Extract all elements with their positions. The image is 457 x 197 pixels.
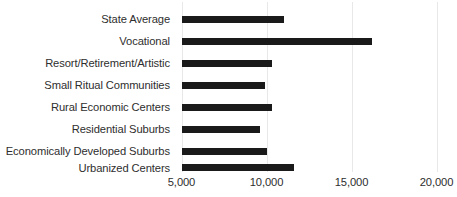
gridline-10000 [267,2,268,172]
bar[interactable] [182,60,272,67]
x-tick-label: 20,000 [420,176,454,188]
bar[interactable] [182,164,294,171]
bar[interactable] [182,16,284,23]
bar[interactable] [182,148,267,155]
gridline-15000 [352,2,353,172]
bar-chart: State AverageVocationalResort/Retirement… [0,0,457,197]
bar[interactable] [182,82,265,89]
x-tick-label: 10,000 [250,176,284,188]
x-tick-label: 5,000 [168,176,196,188]
bar[interactable] [182,126,260,133]
plot-area [0,0,457,172]
bar[interactable] [182,104,272,111]
bar[interactable] [182,38,372,45]
x-tick-label: 15,000 [335,176,369,188]
gridline-20000 [437,2,438,172]
value-axis: 5,00010,00015,00020,000 [0,171,457,197]
